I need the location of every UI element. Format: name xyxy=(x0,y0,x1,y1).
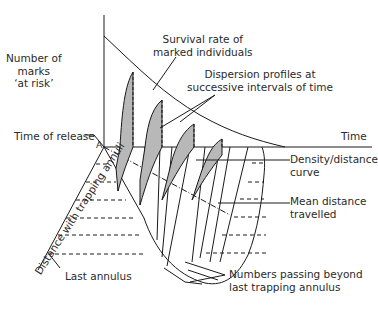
survival-label-line2: marked individuals xyxy=(153,46,253,59)
dispersion-profile-1 xyxy=(116,72,133,191)
survival-label-line1: Survival rate of xyxy=(153,33,253,46)
origin-point-label: A xyxy=(96,139,103,152)
time-axis-label: Time xyxy=(341,130,367,143)
time-of-release-label: Time of release xyxy=(14,130,95,143)
y-axis-label-line1: Number of xyxy=(6,52,62,65)
density-curve-label-line2: curve xyxy=(290,166,378,179)
y-axis-label-line3: ‘at risk’ xyxy=(6,77,62,90)
dispersion-label-line2: successive intervals of time xyxy=(187,81,333,94)
y-axis-label-line2: marks xyxy=(6,65,62,78)
mean-distance-label-line2: travelled xyxy=(290,208,366,221)
numbers-passing-label-line2: last trapping annulus xyxy=(229,281,363,294)
numbers-passing-label-line1: Numbers passing beyond xyxy=(229,268,363,281)
dispersion-profile-3 xyxy=(162,124,194,200)
mean-distance-label-line1: Mean distance xyxy=(290,195,366,208)
density-curve-label-line1: Density/distance xyxy=(290,153,378,166)
dispersion-profile-4 xyxy=(192,139,222,200)
last-annulus-label: Last annulus xyxy=(65,270,132,283)
dispersion-label-line1: Dispersion profiles at xyxy=(187,68,333,81)
